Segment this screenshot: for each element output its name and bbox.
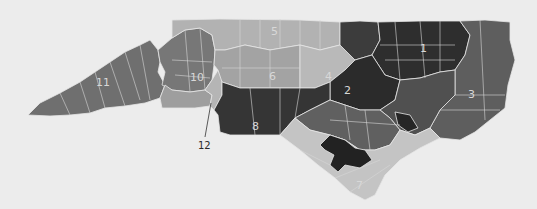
callout-line-12 [205,103,211,137]
district-label-11: 11 [96,76,110,89]
district-6[interactable] [214,45,300,88]
district-label-4: 4 [325,70,332,83]
callout-label-12: 12 [198,140,211,151]
district-label-7: 7 [356,179,363,192]
district-label-1: 1 [420,42,427,55]
nc-districts-map: 11 10 5 6 4 2 1 3 8 7 12 [0,0,537,209]
district-label-3: 3 [468,88,475,101]
district-label-10: 10 [190,71,204,84]
district-10[interactable] [158,28,215,92]
district-label-5: 5 [271,25,278,38]
district-label-2: 2 [344,84,351,97]
district-label-6: 6 [269,70,276,83]
district-label-8: 8 [252,120,259,133]
